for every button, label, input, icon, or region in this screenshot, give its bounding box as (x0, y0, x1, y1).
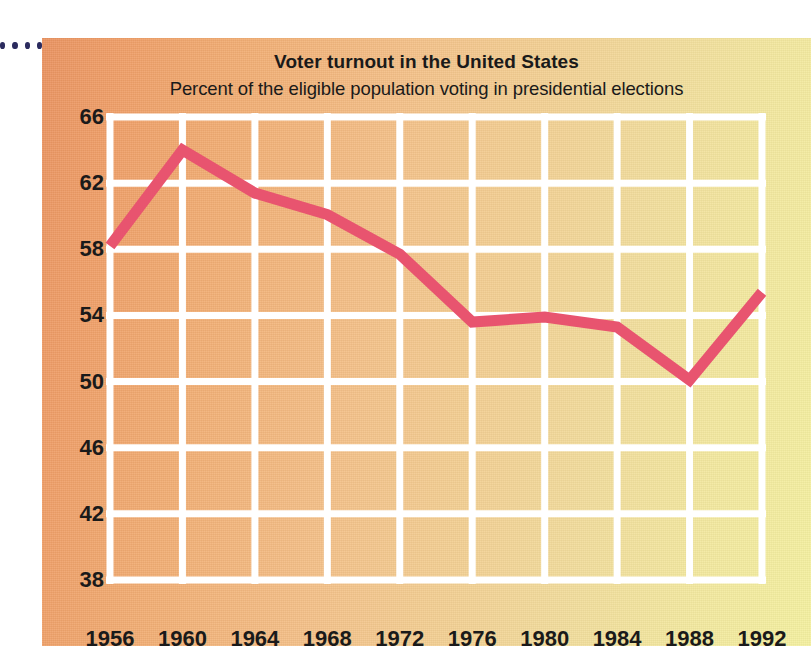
decorative-dot (0, 42, 5, 49)
x-axis-tick-label: 1976 (448, 626, 497, 652)
decorative-dot (12, 42, 17, 49)
x-axis-tick-label: 1960 (158, 626, 207, 652)
decorative-dot (25, 42, 30, 49)
chart-svg (110, 117, 762, 580)
y-axis-tick-label: 66 (58, 104, 104, 130)
x-axis-tick-label: 1980 (520, 626, 569, 652)
x-axis-tick-label: 1956 (86, 626, 135, 652)
x-axis-tick-label: 1964 (230, 626, 279, 652)
y-axis-tick-label: 54 (58, 302, 104, 328)
y-axis-tick-label: 58 (58, 236, 104, 262)
x-axis-tick-label: 1988 (665, 626, 714, 652)
plot-area (110, 117, 762, 580)
y-axis-tick-label: 50 (58, 369, 104, 395)
x-axis-tick-label: 1972 (375, 626, 424, 652)
y-axis-labels: 3842465054586266 (50, 117, 104, 580)
gridlines (106, 113, 766, 584)
x-axis-tick-label: 1992 (738, 626, 787, 652)
chart-panel: Voter turnout in the United States Perce… (42, 38, 811, 646)
chart-screenshot: Voter turnout in the United States Perce… (0, 0, 811, 667)
y-axis-tick-label: 42 (58, 501, 104, 527)
y-axis-tick-label: 38 (58, 567, 104, 593)
y-axis-tick-label: 46 (58, 435, 104, 461)
y-axis-tick-label: 62 (58, 170, 104, 196)
chart-subtitle: Percent of the eligible population votin… (42, 78, 811, 100)
decorative-dot-rule (0, 41, 42, 49)
chart-title: Voter turnout in the United States (42, 51, 811, 73)
x-axis-tick-label: 1984 (593, 626, 642, 652)
x-axis-labels: 1956196019641968197219761980198419881992 (42, 626, 811, 660)
x-axis-tick-label: 1968 (303, 626, 352, 652)
